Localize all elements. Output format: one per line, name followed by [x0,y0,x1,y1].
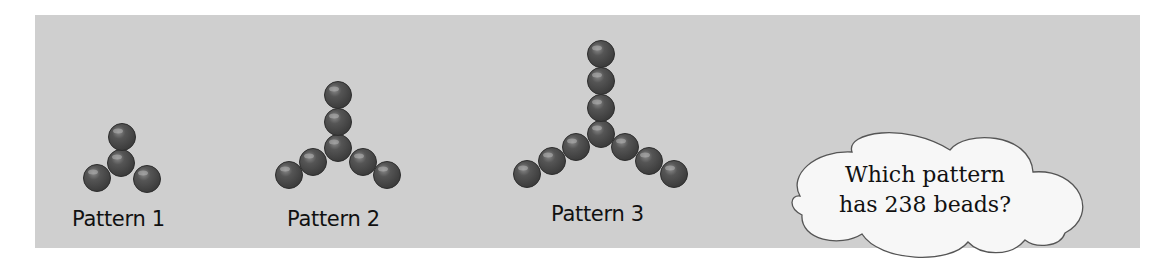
question-line-1: Which pattern [800,160,1050,190]
bead-highlight [138,171,148,176]
bead-icon [325,82,352,109]
bead-icon [325,109,352,136]
bead-highlight [304,154,314,159]
bead-icon [108,150,135,177]
bead-icon [636,148,663,175]
bead-icon [588,41,615,68]
bead-icon [563,134,590,161]
bead-highlight [280,167,290,172]
bead-icon [84,165,111,192]
bead-icon [661,161,688,188]
bead-highlight [567,139,577,144]
bead-icon [514,161,541,188]
bead-icon [134,166,161,193]
bead-icon [588,121,615,148]
bead-icon [300,149,327,176]
bead-icon [350,149,377,176]
bead-highlight [354,154,364,159]
bead-highlight [329,114,339,119]
bead-highlight [329,87,339,92]
bead-icon [588,68,615,95]
bead-highlight [543,153,553,158]
bead-patterns-figure [0,0,1170,267]
bead-highlight [640,153,650,158]
bead-highlight [88,170,98,175]
pattern-3-label: Pattern 3 [551,202,644,226]
bead-icon [612,134,639,161]
thought-bubble-text: Which pattern has 238 beads? [800,160,1050,220]
bead-icon [588,95,615,122]
bead-highlight [616,139,626,144]
bead-highlight [592,46,602,51]
bead-highlight [592,100,602,105]
bead-highlight [592,126,602,131]
pattern-3-beads [514,41,688,188]
bead-icon [109,124,136,151]
bead-icon [539,148,566,175]
bead-highlight [665,166,675,171]
bead-icon [374,162,401,189]
pattern-1-label: Pattern 1 [72,207,165,231]
question-line-2: has 238 beads? [800,190,1050,220]
bead-icon [276,162,303,189]
pattern-2-beads [276,82,401,189]
bead-highlight [592,73,602,78]
bead-highlight [113,129,123,134]
pattern-1-beads [84,124,161,193]
pattern-2-label: Pattern 2 [287,207,380,231]
bead-highlight [329,140,339,145]
bead-highlight [518,166,528,171]
bead-highlight [112,155,122,160]
bead-highlight [378,167,388,172]
bead-icon [325,135,352,162]
